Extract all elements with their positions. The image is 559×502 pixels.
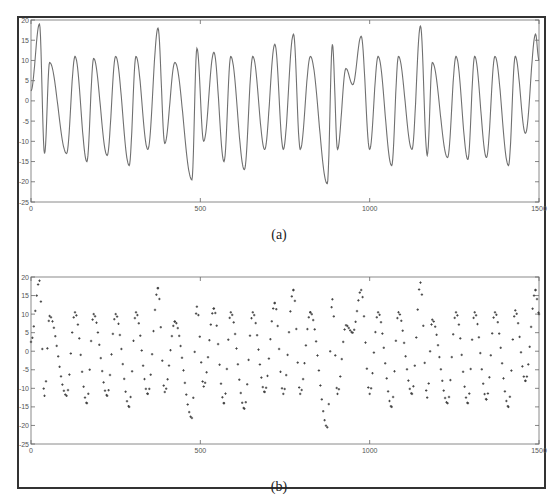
y-tick-label: 10 (21, 311, 29, 318)
figure-canvas: 20151050-5-10-15-20-25050010001500 20151… (0, 0, 559, 502)
panel-a-timeseries-line: 20151050-5-10-15-20-25050010001500 (19, 17, 547, 213)
series-markers (30, 280, 540, 429)
y-tick-label: 15 (21, 37, 29, 44)
x-tick-label: 1500 (531, 205, 547, 212)
x-tick-label: 0 (29, 205, 33, 212)
y-tick-label: 0 (25, 97, 29, 104)
y-tick-label: -20 (19, 178, 29, 185)
x-tick-label: 0 (29, 447, 33, 454)
y-tick-label: 0 (25, 348, 29, 355)
y-tick-label: -5 (23, 366, 29, 373)
panel-b-timeseries-markers: 20151050-5-10-15-20-25050010001500 (19, 274, 547, 455)
y-tick-label: 10 (21, 57, 29, 64)
caption-a: (a) (271, 227, 287, 243)
y-tick-label: -25 (19, 199, 29, 206)
y-tick-label: 5 (25, 329, 29, 336)
axes-box (31, 277, 539, 444)
x-tick-label: 1000 (362, 205, 378, 212)
x-tick-label: 500 (194, 447, 206, 454)
y-tick-label: 20 (21, 274, 29, 281)
y-tick-label: -10 (19, 385, 29, 392)
y-tick-label: 15 (21, 292, 29, 299)
caption-b: (b) (271, 479, 288, 495)
y-tick-label: -25 (19, 441, 29, 448)
y-tick-label: -20 (19, 422, 29, 429)
y-tick-label: -15 (19, 403, 29, 410)
axes-box (31, 20, 539, 202)
series-line (31, 24, 539, 184)
y-tick-label: 20 (21, 17, 29, 24)
x-tick-label: 1000 (362, 447, 378, 454)
y-tick-label: -15 (19, 158, 29, 165)
y-tick-label: -10 (19, 138, 29, 145)
y-tick-label: 5 (25, 77, 29, 84)
x-tick-label: 500 (194, 205, 206, 212)
x-tick-label: 1500 (531, 447, 547, 454)
y-tick-label: -5 (23, 118, 29, 125)
